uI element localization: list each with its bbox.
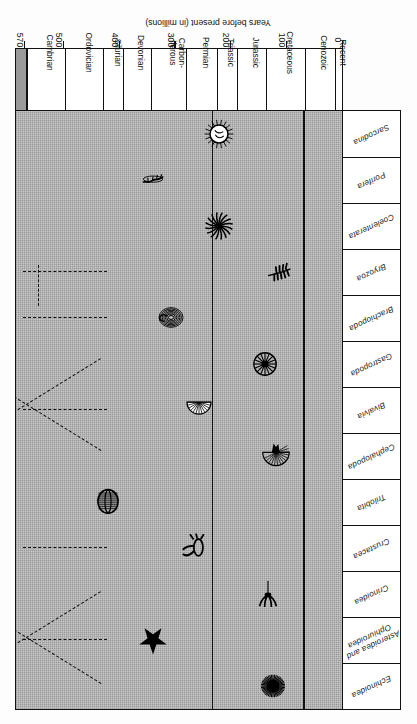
taxon-label: Crustacea <box>352 536 391 560</box>
axis-title: Years before present (in millions) <box>15 18 401 28</box>
taxon-lane <box>16 203 342 249</box>
tick-label: 200 <box>221 33 231 47</box>
period-carbon-iferous: Carbon-iferous <box>151 49 187 110</box>
taxon-cell-coelenterata: Coelenterata <box>343 203 400 249</box>
taxon-cell-trilobita: Trilobita <box>343 479 400 525</box>
taxon-label: Bivalvia <box>356 400 387 420</box>
taxon-lane <box>16 663 342 709</box>
nautiloid-icon <box>261 441 291 471</box>
period-devonian: Devonian <box>123 49 151 110</box>
snail-shell-icon <box>251 350 279 378</box>
period-recent: Recent <box>335 49 342 110</box>
sponge-icon <box>137 169 169 191</box>
taxon-cell-crinoidea: Crinoidea <box>343 571 400 617</box>
taxon-cell-echinoidea: Echinoidea <box>343 663 400 709</box>
taxon-cell-bivalvia: Bivalvia <box>343 387 400 433</box>
trilobite-icon <box>94 486 122 518</box>
bryozoan-icon <box>264 259 294 285</box>
taxon-label: Crinoidea <box>353 583 390 606</box>
taxon-lane <box>16 525 342 571</box>
period-cambrian: Cambrian <box>27 49 65 110</box>
taxon-label: Sarcodina <box>352 122 391 146</box>
taxon-lane <box>16 157 342 203</box>
taxon-label: Bryozoa <box>355 262 387 283</box>
taxon-label: Brachiopoda <box>348 304 395 332</box>
taxon-label: Trilobita <box>356 492 387 513</box>
taxon-lane <box>16 617 342 663</box>
time-axis: RecentCenozoicCretaceousJurassicTriassic… <box>15 14 401 110</box>
taxon-cell-bryozoa: Bryozoa <box>343 249 400 295</box>
inferred-range-dash <box>23 639 108 640</box>
tick-label: 100 <box>277 33 287 47</box>
taxon-label: Asteroidea andOphiuroidea <box>343 620 400 660</box>
pre-cambrian-cap <box>16 49 27 110</box>
taxon-label: Porifera <box>356 170 387 191</box>
taxon-lane <box>16 571 342 617</box>
taxon-name-column: EchinoideaAsteroidea andOphiuroideaCrino… <box>342 111 400 709</box>
taxon-lane <box>16 479 342 525</box>
clam-shell-icon <box>184 397 214 423</box>
inferred-range-dash <box>23 547 108 548</box>
period-cenozoic: Cenozoic <box>305 49 334 110</box>
period-cretaceous: Cretaceous <box>266 49 305 110</box>
inferred-range-dash <box>23 317 108 318</box>
taxon-cell-asteroidea-and-ophiuroidea: Asteroidea andOphiuroidea <box>343 617 400 663</box>
gridline <box>303 111 305 709</box>
tick-label: 500 <box>54 33 64 47</box>
taxon-label: Gastropoda <box>349 351 393 378</box>
taxon-lane <box>16 111 342 157</box>
taxon-lane <box>16 387 342 433</box>
plot-area <box>16 111 342 709</box>
tick-label: 570 <box>15 33 25 47</box>
taxon-cell-gastropoda: Gastropoda <box>343 341 400 387</box>
foraminifera-icon <box>204 119 234 149</box>
extinct-range-edge <box>38 265 39 306</box>
taxon-cell-cephalopoda: Cephalopoda <box>343 433 400 479</box>
inferred-range-dash <box>23 271 108 272</box>
period-jurassic: Jurassic <box>237 49 267 110</box>
fossil-range-figure: EchinoideaAsteroidea andOphiuroideaCrino… <box>0 0 417 724</box>
period-silurian: Silurian <box>103 49 123 110</box>
taxon-cell-porifera: Porifera <box>343 157 400 203</box>
period-triassic: Triassic <box>217 49 237 110</box>
period-bar: RecentCenozoicCretaceousJurassicTriassic… <box>15 48 343 110</box>
taxon-cell-sarcodina: Sarcodina <box>343 111 400 157</box>
sea-urchin-icon <box>260 671 286 701</box>
taxon-cell-crustacea: Crustacea <box>343 525 400 571</box>
brachiopod-icon <box>155 305 185 331</box>
tick-label: 0 <box>333 38 343 43</box>
chart-frame: EchinoideaAsteroidea andOphiuroideaCrino… <box>15 110 401 710</box>
starfish-icon <box>138 625 168 655</box>
tick-label: 400 <box>110 33 120 47</box>
coral-polyp-icon <box>204 211 234 241</box>
taxon-label: Cephalopoda <box>347 442 397 471</box>
crinoid-icon <box>254 580 282 608</box>
period-permian: Permian <box>186 49 216 110</box>
crustacean-icon <box>181 533 211 563</box>
taxon-cell-brachiopoda: Brachiopoda <box>343 295 400 341</box>
taxon-lane <box>16 433 342 479</box>
taxon-label: Echinoidea <box>350 674 392 700</box>
tick-label: 300 <box>166 33 176 47</box>
taxon-label: Coelenterata <box>347 212 395 241</box>
period-ordovician: Ordovician <box>65 49 103 110</box>
